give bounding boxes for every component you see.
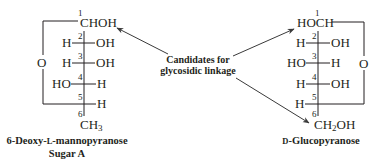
left-c4-left: HO (52, 76, 71, 91)
right-c3-right: H (331, 55, 340, 70)
right-sugar-name: D-Glucopyranose (282, 135, 360, 146)
right-c3-left: HO (287, 55, 306, 70)
right-c3-number: 3 (312, 51, 317, 61)
left-c2-left: H (62, 35, 71, 50)
left-c3-right: OH (96, 55, 115, 70)
right-c1-group: HOCH (297, 15, 334, 30)
arrow-to-left-c1 (117, 28, 168, 54)
left-ring-top-line (43, 21, 78, 55)
left-c2-number: 2 (78, 31, 83, 41)
right-c6-group: CH2OH (314, 117, 355, 133)
right-c2-left: H (296, 35, 305, 50)
left-c6-group: CH3 (80, 117, 103, 133)
left-sugar-structure: O 1 CHOH 2 H OH 3 H OH 4 HO H 5 H 6 (6, 8, 128, 159)
left-sugar-subtitle: Sugar A (49, 148, 86, 159)
left-c4-right: H (97, 76, 106, 91)
glycosidic-annotation: Candidates for glycosidic linkage (117, 28, 309, 123)
left-c3-number: 3 (78, 51, 83, 61)
left-c5-right: H (97, 96, 106, 111)
right-c4-right: OH (331, 76, 350, 91)
right-ring-oxygen: O (359, 56, 368, 71)
right-c4-number: 4 (312, 72, 317, 82)
diagram-canvas: O 1 CHOH 2 H OH 3 H OH 4 HO H 5 H 6 (0, 0, 385, 164)
annotation-line2: glycosidic linkage (160, 65, 236, 76)
glycosidic-linkage-diagram: O 1 CHOH 2 H OH 3 H OH 4 HO H 5 H 6 (0, 0, 385, 164)
left-sugar-name: 6-Deoxy-L-mannopyranose (6, 135, 128, 146)
left-c1-group: CHOH (80, 15, 117, 30)
left-c2-right: OH (96, 35, 115, 50)
left-c4-number: 4 (78, 72, 83, 82)
left-c3-left: H (62, 55, 71, 70)
right-c5-number: 5 (312, 92, 317, 102)
right-c5-left: H (295, 96, 304, 111)
right-c4-left: H (296, 76, 305, 91)
left-ring-oxygen: O (37, 55, 46, 70)
right-c2-number: 2 (312, 31, 317, 41)
right-c2-right: OH (331, 35, 350, 50)
annotation-line1: Candidates for (166, 54, 230, 65)
arrow-to-right-c1 (233, 29, 294, 56)
left-c5-number: 5 (78, 92, 83, 102)
right-sugar-structure: O 1 HOCH 2 H OH 3 HO H 4 H OH 5 H 6 (282, 8, 368, 146)
